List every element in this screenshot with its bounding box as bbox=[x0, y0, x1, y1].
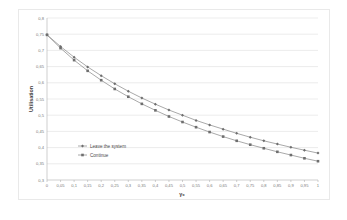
x-tick-label: 0,5 bbox=[180, 183, 186, 188]
data-point-marker bbox=[276, 143, 279, 146]
data-point-marker bbox=[168, 115, 171, 118]
x-tick-label: 0,15 bbox=[84, 183, 93, 188]
x-tick-label: 0,05 bbox=[57, 183, 66, 188]
data-point-marker bbox=[113, 88, 116, 91]
data-point-marker bbox=[195, 126, 198, 129]
gridlines-group bbox=[47, 18, 318, 180]
data-point-marker bbox=[127, 90, 130, 93]
data-point-marker bbox=[222, 135, 225, 138]
chart-container: 0,30,350,40,450,50,550,60,650,70,750,8 0… bbox=[0, 0, 347, 220]
chart-legend: Leave the systemContinue bbox=[78, 144, 126, 158]
x-tick-label: 0,8 bbox=[261, 183, 267, 188]
y-tick-label: 0,65 bbox=[36, 64, 45, 69]
data-point-marker bbox=[263, 147, 266, 150]
x-tick-label: 0,7 bbox=[234, 183, 240, 188]
y-tick-label: 0,3 bbox=[38, 178, 44, 183]
x-tick-label: 0,3 bbox=[125, 183, 131, 188]
y-tick-label: 0,5 bbox=[38, 113, 44, 118]
series-line bbox=[47, 35, 318, 153]
x-tick-marks-group bbox=[47, 180, 318, 182]
data-point-marker bbox=[303, 157, 306, 160]
data-point-marker bbox=[262, 139, 265, 142]
data-point-marker bbox=[208, 131, 211, 134]
data-point-marker bbox=[59, 47, 62, 50]
x-tick-label: 0,55 bbox=[192, 183, 201, 188]
data-point-marker bbox=[222, 128, 225, 131]
x-tick-label: 0,4 bbox=[153, 183, 159, 188]
x-tick-label: 0,35 bbox=[138, 183, 147, 188]
x-tick-label: 0,1 bbox=[71, 183, 77, 188]
data-point-marker bbox=[154, 109, 157, 112]
data-point-marker bbox=[276, 151, 279, 154]
x-tick-label: 0,25 bbox=[111, 183, 120, 188]
data-point-marker bbox=[208, 123, 211, 126]
data-point-marker bbox=[46, 34, 49, 37]
data-point-marker bbox=[100, 79, 103, 82]
data-point-marker bbox=[289, 146, 292, 149]
x-tick-label: 0,45 bbox=[165, 183, 174, 188]
data-point-marker bbox=[86, 70, 89, 73]
y-tick-label: 0,4 bbox=[38, 145, 44, 150]
x-tick-labels-group: 00,050,10,150,20,250,30,350,40,450,50,55… bbox=[46, 183, 320, 188]
y-axis-title: Utilisation bbox=[28, 86, 34, 112]
x-tick-label: 0,65 bbox=[219, 183, 228, 188]
x-tick-label: 0,9 bbox=[288, 183, 294, 188]
y-tick-label: 0,45 bbox=[36, 129, 45, 134]
x-tick-label: 1 bbox=[317, 183, 320, 188]
series-line bbox=[47, 35, 318, 161]
x-tick-label: 0,6 bbox=[207, 183, 213, 188]
y-tick-label: 0,35 bbox=[36, 161, 45, 166]
data-point-marker bbox=[317, 152, 320, 155]
x-tick-label: 0,85 bbox=[273, 183, 282, 188]
y-tick-label: 0,8 bbox=[38, 16, 44, 21]
y-tick-label: 0,55 bbox=[36, 97, 45, 102]
data-point-marker bbox=[317, 160, 320, 163]
data-point-marker bbox=[235, 139, 238, 142]
data-point-marker bbox=[73, 59, 76, 62]
data-point-marker bbox=[141, 103, 144, 106]
legend-item: Leave the system bbox=[78, 144, 126, 149]
legend-label: Continue bbox=[90, 153, 109, 158]
y-tick-labels-group: 0,30,350,40,450,50,550,60,650,70,750,8 bbox=[36, 16, 45, 183]
data-point-marker bbox=[195, 119, 198, 122]
series-2 bbox=[46, 34, 320, 163]
legend-marker bbox=[81, 145, 84, 148]
legend-marker bbox=[81, 154, 84, 157]
x-tick-label: 0 bbox=[46, 183, 49, 188]
y-tick-label: 0,7 bbox=[38, 48, 44, 53]
series-1 bbox=[46, 33, 320, 154]
data-point-marker bbox=[167, 109, 170, 112]
legend-label: Leave the system bbox=[90, 144, 126, 149]
data-point-marker bbox=[181, 121, 184, 124]
y-tick-label: 0,75 bbox=[36, 32, 45, 37]
x-tick-label: 0,75 bbox=[246, 183, 255, 188]
legend-item: Continue bbox=[78, 153, 109, 158]
data-point-marker bbox=[249, 143, 252, 146]
x-axis-title: γ₀ bbox=[179, 191, 185, 197]
data-point-marker bbox=[181, 114, 184, 117]
data-point-marker bbox=[127, 95, 130, 98]
y-tick-label: 0,6 bbox=[38, 80, 44, 85]
data-point-marker bbox=[249, 136, 252, 139]
data-point-marker bbox=[303, 149, 306, 152]
x-tick-label: 0,2 bbox=[98, 183, 104, 188]
data-point-marker bbox=[290, 154, 293, 157]
chart-plot: 0,30,350,40,450,50,550,60,650,70,750,8 0… bbox=[0, 0, 347, 220]
data-point-marker bbox=[235, 132, 238, 135]
series-group bbox=[46, 33, 320, 162]
x-tick-label: 0,95 bbox=[300, 183, 309, 188]
data-point-marker bbox=[154, 103, 157, 106]
